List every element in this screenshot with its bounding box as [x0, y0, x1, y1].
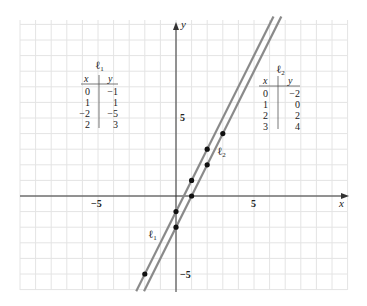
- table-l2-cell-y: −2: [289, 88, 300, 99]
- grid: [20, 20, 348, 290]
- table-l1-cell-x: −2: [79, 108, 90, 119]
- table-l1-cell-x: 1: [85, 97, 90, 108]
- table-l2-header-x: x: [262, 75, 268, 86]
- table-l2-cell-x: 3: [263, 121, 268, 132]
- tick-y-neg5: −5: [180, 269, 191, 280]
- table-l1-cell-y: 3: [113, 119, 118, 130]
- table-l1-cell-x: 0: [85, 86, 90, 97]
- point-l1: [205, 147, 210, 152]
- table-l2-cell-y: 2: [295, 110, 300, 121]
- tick-x-neg5: −5: [91, 198, 102, 209]
- table-l2-cell-x: 0: [263, 88, 268, 99]
- point-l1: [189, 178, 194, 183]
- y-axis-label: y: [180, 18, 186, 30]
- tick-x-pos5: 5: [251, 198, 256, 209]
- table-l1-header-y: y: [107, 73, 113, 84]
- table-l2: ℓ2 x y 0−2102234: [259, 63, 300, 132]
- point-l1: [173, 209, 178, 214]
- point-l2: [205, 162, 210, 167]
- line2-label: ℓ2: [217, 145, 226, 159]
- point-l1: [142, 271, 147, 276]
- table-l1: ℓ1 x y 0−111−2−523: [79, 59, 118, 130]
- table-l2-header-y: y: [287, 75, 293, 86]
- table-l2-cell-x: 2: [263, 110, 268, 121]
- table-l1-header-x: x: [83, 73, 89, 84]
- table-l1-cell-y: −5: [107, 108, 118, 119]
- line1-label: ℓ1: [148, 228, 157, 242]
- line-l2: [144, 17, 281, 292]
- table-l1-cell-x: 2: [85, 119, 90, 130]
- table-l1-title: ℓ1: [95, 59, 104, 73]
- line-l1: [136, 17, 273, 292]
- axes: [20, 22, 349, 292]
- point-l2: [220, 131, 225, 136]
- table-l2-cell-y: 0: [295, 99, 300, 110]
- table-l2-cell-x: 1: [263, 99, 268, 110]
- table-l1-cell-y: 1: [113, 97, 118, 108]
- x-axis-label: x: [338, 197, 344, 209]
- tick-y-pos5: 5: [180, 112, 185, 123]
- table-l1-cell-y: −1: [107, 86, 118, 97]
- table-l2-title: ℓ2: [276, 63, 285, 77]
- lines: [136, 17, 281, 292]
- point-l2: [189, 193, 194, 198]
- coordinate-plane: x y −5 5 5 −5 ℓ1 ℓ2 ℓ1 x y 0−111−2−523 ℓ…: [0, 0, 367, 306]
- table-l2-cell-y: 4: [295, 121, 300, 132]
- y-axis-arrow-icon: [173, 22, 179, 30]
- point-l2: [173, 225, 178, 230]
